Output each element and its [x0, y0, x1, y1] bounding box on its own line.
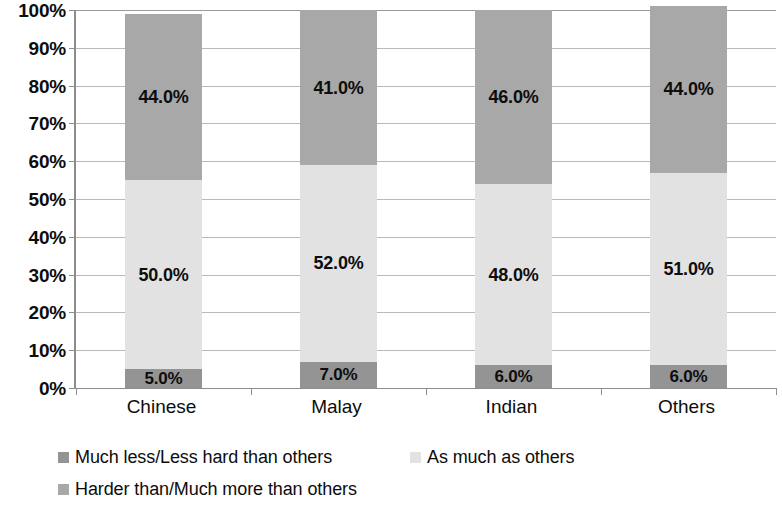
y-tick-label: 70% — [0, 114, 66, 133]
y-tickmark-70 — [69, 123, 76, 124]
y-tick-label: 10% — [0, 341, 66, 360]
y-tickmark-30 — [69, 275, 76, 276]
bar-indian[interactable]: 6.0%48.0%46.0% — [475, 10, 552, 388]
bar-segment[interactable]: 51.0% — [650, 173, 727, 366]
x-category-label-chinese: Chinese — [127, 396, 197, 419]
y-tickmark-100 — [69, 10, 76, 11]
bar-malay[interactable]: 7.0%52.0%41.0% — [300, 10, 377, 388]
bar-segment-label: 51.0% — [663, 260, 713, 278]
y-tickmark-10 — [69, 350, 76, 351]
y-tick-label: 100% — [0, 1, 66, 20]
bar-segment[interactable]: 48.0% — [475, 184, 552, 365]
bar-segment[interactable]: 46.0% — [475, 10, 552, 184]
y-tickmark-60 — [69, 161, 76, 162]
bar-chinese[interactable]: 5.0%50.0%44.0% — [125, 10, 202, 388]
y-tickmark-40 — [69, 237, 76, 238]
bar-segment-label: 48.0% — [488, 266, 538, 284]
bar-segment[interactable]: 6.0% — [650, 365, 727, 388]
x-tickmark — [251, 388, 252, 395]
chart-legend: Much less/Less hard than othersAs much a… — [58, 448, 758, 510]
legend-item[interactable]: Harder than/Much more than others — [58, 480, 357, 498]
y-tick-label: 90% — [0, 38, 66, 57]
x-axis: ChineseMalayIndianOthers — [74, 396, 774, 428]
bar-segment[interactable]: 5.0% — [125, 369, 202, 388]
x-tickmark — [601, 388, 602, 395]
legend-swatch-icon — [410, 452, 421, 463]
x-category-label-indian: Indian — [486, 396, 538, 419]
legend-label: Much less/Less hard than others — [75, 448, 332, 466]
bar-segment-label: 44.0% — [138, 88, 188, 106]
legend-label: As much as others — [427, 448, 574, 466]
x-category-label-malay: Malay — [311, 396, 362, 419]
legend-swatch-icon — [58, 484, 69, 495]
bar-segment-label: 52.0% — [313, 254, 363, 272]
bar-segment-label: 41.0% — [313, 79, 363, 97]
plot-area: 5.0%50.0%44.0%7.0%52.0%41.0%6.0%48.0%46.… — [74, 10, 776, 388]
bar-others[interactable]: 6.0%51.0%44.0% — [650, 10, 727, 388]
y-tick-label: 60% — [0, 152, 66, 171]
y-tickmark-80 — [69, 86, 76, 87]
legend-item[interactable]: As much as others — [410, 448, 574, 466]
x-tickmark — [426, 388, 427, 395]
y-tickmark-0 — [69, 388, 76, 389]
bar-segment[interactable]: 52.0% — [300, 165, 377, 362]
x-tickmark — [76, 388, 77, 395]
legend-item[interactable]: Much less/Less hard than others — [58, 448, 332, 466]
bar-segment[interactable]: 6.0% — [475, 365, 552, 388]
y-tickmark-90 — [69, 48, 76, 49]
bar-segment[interactable]: 41.0% — [300, 10, 377, 165]
bar-segment[interactable]: 44.0% — [125, 14, 202, 180]
bar-segment-label: 7.0% — [320, 366, 358, 383]
y-tick-label: 80% — [0, 76, 66, 95]
x-category-label-others: Others — [658, 396, 715, 419]
y-tick-label: 40% — [0, 227, 66, 246]
bar-segment-label: 44.0% — [663, 80, 713, 98]
bar-segment-label: 5.0% — [145, 370, 183, 387]
bar-segment-label: 46.0% — [488, 88, 538, 106]
bar-segment[interactable]: 44.0% — [650, 6, 727, 172]
y-tickmark-20 — [69, 312, 76, 313]
stacked-bar-chart: 0%10%20%30%40%50%60%70%80%90%100% 5.0%50… — [0, 0, 782, 516]
bar-segment-label: 50.0% — [138, 266, 188, 284]
y-tick-label: 20% — [0, 303, 66, 322]
y-tickmark-50 — [69, 199, 76, 200]
y-tick-label: 0% — [0, 379, 66, 398]
legend-label: Harder than/Much more than others — [75, 480, 357, 498]
y-tick-label: 50% — [0, 190, 66, 209]
bar-segment-label: 6.0% — [495, 368, 533, 385]
y-axis: 0%10%20%30%40%50%60%70%80%90%100% — [0, 0, 66, 392]
bar-segment[interactable]: 50.0% — [125, 180, 202, 369]
bar-segment[interactable]: 7.0% — [300, 362, 377, 388]
bar-segment-label: 6.0% — [670, 368, 708, 385]
x-tickmark — [776, 388, 777, 395]
y-tick-label: 30% — [0, 265, 66, 284]
legend-swatch-icon — [58, 452, 69, 463]
